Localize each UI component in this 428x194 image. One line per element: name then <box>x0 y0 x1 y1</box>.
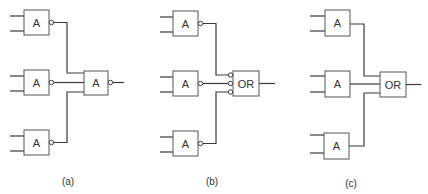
gate-label: A <box>334 78 342 90</box>
inversion-bubble-icon <box>198 21 202 25</box>
diagram-c: A A A OR (c) <box>310 10 421 189</box>
input-gate-a2: A <box>10 70 84 95</box>
gate-label: A <box>33 77 41 89</box>
output-gate-a: A <box>84 71 124 95</box>
logic-diagrams: A A A A (a) <box>0 0 428 194</box>
diagram-b: A A A OR (b) <box>160 11 275 187</box>
inversion-bubble-icon <box>198 141 202 145</box>
input-gate-c3: A <box>310 93 380 159</box>
diagram-a: A A A A (a) <box>10 10 124 187</box>
gate-label: OR <box>385 79 402 91</box>
gate-label: A <box>92 77 100 89</box>
inversion-bubble-icon <box>198 81 202 85</box>
input-gate-b3: A <box>160 92 228 156</box>
inversion-bubble-icon <box>228 73 232 77</box>
gate-label: A <box>33 137 41 149</box>
input-gate-c1: A <box>310 10 380 76</box>
gate-label: A <box>333 140 341 152</box>
gate-label: OR <box>238 78 255 90</box>
caption-a: (a) <box>62 176 74 187</box>
caption-b: (b) <box>206 176 218 187</box>
inversion-bubble-icon <box>108 80 112 84</box>
input-gate-a3: A <box>10 92 84 155</box>
output-gate-b: OR <box>228 71 275 96</box>
inversion-bubble-icon <box>228 90 232 94</box>
output-gate-c: OR <box>380 72 421 97</box>
inversion-bubble-icon <box>49 80 53 84</box>
inversion-bubble-icon <box>228 81 232 85</box>
input-gate-b1: A <box>160 11 228 75</box>
gate-label: A <box>334 17 342 29</box>
gate-label: A <box>182 78 190 90</box>
inversion-bubble-icon <box>49 140 53 144</box>
gate-label: A <box>182 18 190 30</box>
caption-c: (c) <box>345 178 357 189</box>
input-gate-a1: A <box>10 10 84 73</box>
gate-label: A <box>33 17 41 29</box>
inversion-bubble-icon <box>49 20 53 24</box>
gate-label: A <box>182 138 190 150</box>
